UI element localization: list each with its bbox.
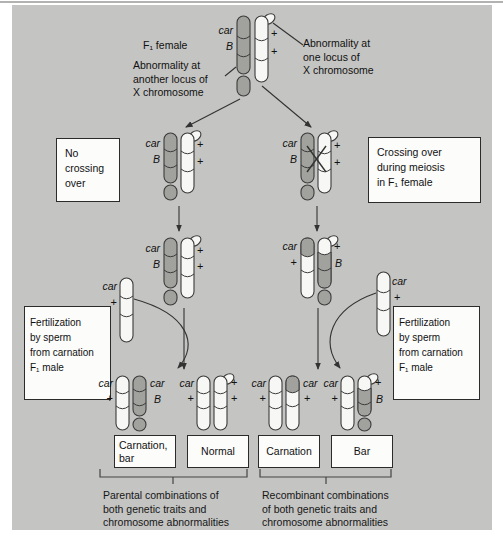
chromosome-rod	[237, 16, 250, 74]
sperm-arrow-right	[330, 293, 376, 368]
chromosome-rod	[164, 290, 177, 305]
crossing-over-box: Crossing over during meiosis in F₁ femal…	[368, 137, 481, 203]
gene-label-car: car	[91, 280, 117, 294]
outcome-box-carnation: Carnation	[258, 435, 320, 468]
chromosome-segment	[301, 238, 314, 257]
chromosome-segment	[358, 388, 371, 416]
plus-allele-label: +	[231, 393, 237, 404]
plus-allele-label: +	[197, 245, 203, 256]
sperm-arrow-left	[134, 299, 188, 368]
plus-allele-label: +	[304, 393, 310, 404]
diagram-lines-svg	[0, 0, 503, 547]
chromosome-rod	[214, 376, 227, 430]
chromosome-rod	[301, 133, 314, 183]
plus-allele-label: +	[231, 377, 237, 388]
plus-allele-label: +	[394, 292, 400, 303]
abnormality-right-note: Abnormality at one locus of X chromosome	[303, 37, 374, 78]
gene-label-car: car	[134, 137, 160, 151]
plus-allele-label: +	[240, 393, 266, 404]
plus-allele-label: +	[197, 139, 203, 150]
gene-label-car: car	[207, 24, 233, 38]
gene-label-car: car	[271, 240, 297, 254]
gene-label-car: car	[312, 377, 338, 391]
diverge-arrow-right	[262, 86, 311, 127]
outcome-box-bar: Bar	[331, 435, 393, 468]
gene-label-car: car	[150, 377, 165, 391]
chromosome-rod	[133, 418, 146, 431]
no-crossing-over-box: No crossing over	[56, 138, 120, 202]
chromosome-segment	[318, 252, 331, 288]
gene-label-B: B	[271, 153, 297, 167]
gene-label-car: car	[271, 137, 297, 151]
chromosome-segment	[286, 376, 299, 393]
chromosome-rod	[164, 238, 177, 288]
diverge-arrow-left	[186, 99, 240, 127]
chromosome-rod	[116, 376, 129, 430]
abnormality-pointer-left	[225, 67, 236, 76]
plus-allele-label: +	[375, 377, 381, 388]
recombinant-bracket	[260, 469, 391, 484]
recombinant-caption: Recombinant combinations of both genetic…	[262, 489, 389, 530]
chromosome-rod	[301, 185, 314, 200]
plus-allele-label: +	[334, 241, 340, 252]
f1-female-label: F₁ female	[143, 39, 187, 53]
abnormality-pointer-right	[273, 23, 303, 45]
gene-label-car: car	[240, 377, 266, 391]
chromosome-rod	[341, 376, 354, 430]
gene-label-car: car	[392, 275, 407, 289]
gene-label-B: B	[134, 258, 160, 272]
gene-label-B: B	[376, 393, 383, 407]
chromosome-rod	[133, 376, 146, 416]
plus-allele-label: +	[334, 157, 340, 168]
chromosome-rod	[269, 376, 282, 430]
plus-allele-label: +	[334, 140, 340, 151]
plus-allele-label: +	[271, 257, 297, 268]
plus-allele-label: +	[87, 393, 113, 404]
chromosome-rod	[181, 133, 194, 193]
chromosome-rod	[164, 185, 177, 200]
chromosome-rod	[197, 376, 210, 430]
chromosome-rod	[120, 278, 133, 342]
plus-allele-label: +	[197, 261, 203, 272]
plus-allele-label: +	[168, 393, 194, 404]
outcome-box-normal: Normal	[187, 435, 249, 468]
chromosome-rod	[181, 238, 194, 298]
chromosome-rod	[255, 16, 268, 82]
parental-bracket	[100, 469, 247, 484]
parental-caption: Parental combinations of both genetic tr…	[103, 489, 229, 530]
fertilization-right-box: Fertilization by sperm from carnation F₁…	[393, 306, 480, 400]
plus-allele-label: +	[312, 393, 338, 404]
chromosome-rod	[358, 418, 371, 431]
outcome-box-carnation-bar: Carnation, bar	[114, 435, 176, 468]
chromosome-rod	[164, 133, 177, 183]
plus-allele-label: +	[197, 156, 203, 167]
gene-label-B: B	[134, 153, 160, 167]
chromosome-rod	[377, 272, 390, 336]
plus-allele-label: +	[271, 46, 277, 57]
chromosome-rod	[318, 290, 331, 305]
gene-label-B: B	[207, 40, 233, 54]
gene-label-car: car	[87, 377, 113, 391]
chromosome-rod	[237, 76, 250, 96]
plus-allele-label: +	[271, 28, 277, 39]
gene-label-car: car	[168, 377, 194, 391]
abnormality-left-note: Abnormality at another locus of X chromo…	[133, 59, 208, 100]
gene-label-B: B	[335, 257, 342, 271]
gene-label-car: car	[134, 242, 160, 256]
gene-label-B: B	[154, 393, 161, 407]
